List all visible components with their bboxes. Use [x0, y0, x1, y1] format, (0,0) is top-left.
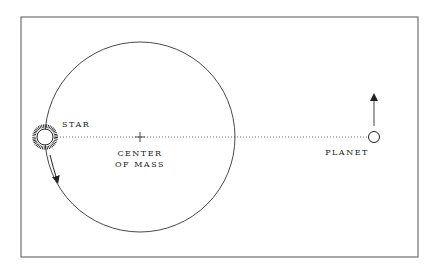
center-of-mass-label-2: OF MASS — [115, 160, 165, 169]
center-of-mass-marker — [135, 132, 145, 142]
planet-icon — [369, 132, 380, 143]
star-label: STAR — [62, 120, 90, 129]
star-icon — [34, 126, 56, 148]
orbit-diagram: STAR CENTER OF MASS PLANET — [0, 0, 438, 275]
center-of-mass-label-1: CENTER — [117, 149, 162, 158]
planet-label: PLANET — [325, 148, 369, 157]
